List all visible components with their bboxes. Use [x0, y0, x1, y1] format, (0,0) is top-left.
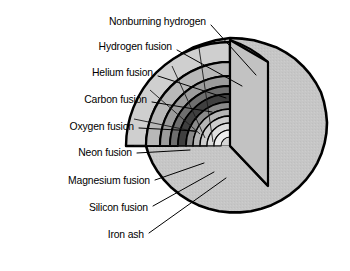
label-iron-ash: Iron ash — [108, 229, 145, 240]
label-neon-fusion: Neon fusion — [78, 147, 132, 158]
label-nonburning-hydrogen: Nonburning hydrogen — [109, 16, 206, 27]
label-silicon-fusion: Silicon fusion — [89, 202, 148, 213]
stellar-onion-shell-figure: Nonburning hydrogen Hydrogen fusion Heli… — [0, 0, 350, 271]
label-oxygen-fusion: Oxygen fusion — [70, 121, 135, 132]
diagram-canvas: Nonburning hydrogen Hydrogen fusion Heli… — [0, 0, 350, 271]
label-magnesium-fusion: Magnesium fusion — [68, 175, 150, 186]
label-carbon-fusion: Carbon fusion — [84, 94, 147, 105]
label-hydrogen-fusion: Hydrogen fusion — [99, 41, 173, 52]
label-helium-fusion: Helium fusion — [92, 67, 153, 78]
